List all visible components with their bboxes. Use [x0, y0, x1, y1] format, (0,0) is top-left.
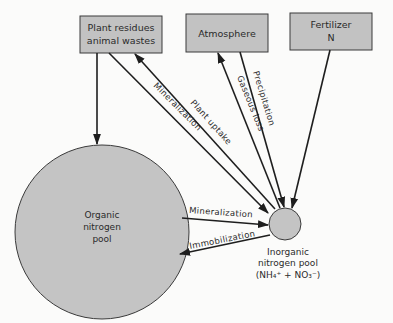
organic-pool-label-line3: pool	[92, 234, 111, 244]
immobilization-label: Immobilization	[188, 228, 256, 251]
organic-pool-label-line1: Organic	[84, 210, 119, 220]
plant-residues-label-line2: animal wastes	[87, 35, 155, 46]
atmosphere-box: Atmosphere	[186, 14, 268, 52]
plant-residues-box: Plant residues animal wastes	[80, 16, 162, 53]
inorganic-pool-label-line3: (NH₄⁺ + NO₃⁻)	[256, 270, 320, 280]
fertilizer-box: Fertilizer N	[290, 13, 372, 50]
gaseous-loss-arrow	[218, 53, 280, 208]
organic-pool-label-line2: nitrogen	[83, 222, 121, 232]
nitrogen-cycle-diagram: Plant residues animal wastes Atmosphere …	[0, 0, 393, 323]
inorganic-pool-label-line1: Inorganic	[267, 247, 309, 257]
inorganic-pool-label-line2: nitrogen pool	[258, 258, 318, 268]
fertilizer-label-line2: N	[327, 32, 334, 43]
fertilizer-label-line1: Fertilizer	[310, 19, 351, 30]
organic-nitrogen-pool: Organic nitrogen pool	[15, 145, 189, 319]
fertilizer-arrow	[292, 50, 330, 208]
mineralization-label: Mineralization	[189, 205, 253, 219]
atmosphere-label: Atmosphere	[198, 28, 256, 39]
mineralization-arrow	[182, 218, 268, 225]
plant-residues-label-line1: Plant residues	[88, 22, 155, 33]
inorganic-nitrogen-pool: Inorganic nitrogen pool (NH₄⁺ + NO₃⁻)	[256, 208, 320, 280]
